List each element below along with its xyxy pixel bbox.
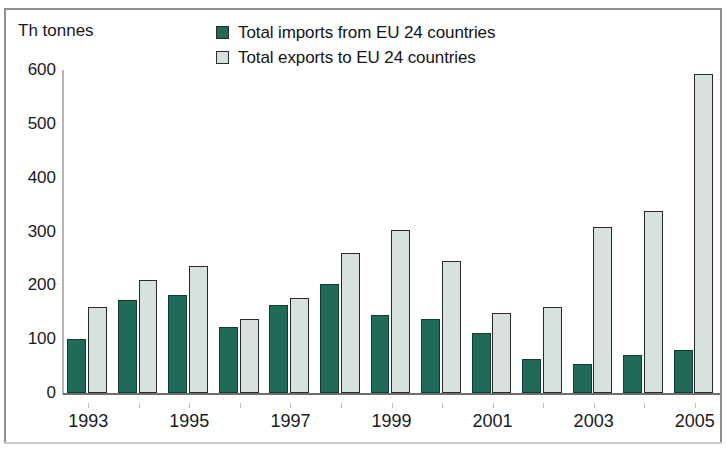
bar-2005-exports (694, 74, 713, 393)
chart-legend: Total imports from EU 24 countries Total… (216, 20, 495, 70)
bar-group (63, 70, 720, 393)
bar-2005-imports (674, 350, 693, 393)
legend-item-exports: Total exports to EU 24 countries (216, 45, 495, 70)
x-tickmark-1997 (290, 403, 291, 408)
bar-2003-exports (593, 227, 612, 393)
bar-2004-imports (623, 355, 642, 393)
bar-2004-exports (644, 211, 663, 393)
bar-1999-exports (391, 230, 410, 393)
legend-label-exports: Total exports to EU 24 countries (238, 48, 476, 68)
bar-chart-figure: Th tonnes Total imports from EU 24 count… (0, 0, 726, 452)
x-tickmark-1993 (88, 403, 89, 408)
x-tickmark-2000 (442, 403, 443, 408)
bar-2000-imports (421, 319, 440, 393)
x-tick-1993: 1993 (68, 411, 108, 432)
bar-1997-exports (290, 298, 309, 393)
x-tickmark-1998 (341, 403, 342, 408)
y-tick-400: 400 (28, 168, 56, 188)
figure-border-right (720, 8, 722, 444)
figure-border-top (4, 8, 722, 10)
x-tick-2003: 2003 (574, 411, 614, 432)
bar-2000-exports (442, 261, 461, 393)
x-tickmark-1999 (392, 403, 393, 408)
x-tickmark-2001 (493, 403, 494, 408)
x-tickmark-1996 (240, 403, 241, 408)
bar-1996-imports (219, 327, 238, 393)
bar-1994-exports (139, 280, 158, 393)
y-tick-100: 100 (28, 329, 56, 349)
x-tickmark-2002 (543, 403, 544, 408)
x-tickmark-2005 (695, 403, 696, 408)
y-tick-300: 300 (28, 222, 56, 242)
x-tickmark-2003 (594, 403, 595, 408)
y-axis-tick-labels: 0100200300400500600 (0, 70, 56, 393)
bar-1993-exports (88, 307, 107, 393)
legend-item-imports: Total imports from EU 24 countries (216, 20, 495, 45)
x-axis-tick-labels: 1993199519971999200120032005 (63, 403, 720, 433)
bar-2003-imports (573, 364, 592, 393)
x-axis-line (63, 393, 720, 395)
y-tick-0: 0 (47, 383, 56, 403)
bar-1996-exports (240, 319, 259, 393)
x-tick-1999: 1999 (371, 411, 411, 432)
bar-1997-imports (269, 305, 288, 393)
plot-area (63, 70, 720, 395)
x-tickmark-1994 (139, 403, 140, 408)
bar-1998-imports (320, 284, 339, 393)
x-tickmark-1995 (189, 403, 190, 408)
bar-1995-exports (189, 266, 208, 393)
y-tick-500: 500 (28, 114, 56, 134)
y-tick-200: 200 (28, 275, 56, 295)
y-tick-600: 600 (28, 60, 56, 80)
bar-2002-imports (522, 359, 541, 393)
legend-swatch-exports (216, 51, 229, 64)
bar-1995-imports (168, 295, 187, 394)
legend-swatch-imports (216, 26, 229, 39)
bar-2001-exports (492, 313, 511, 393)
figure-border-bottom (4, 442, 722, 444)
bar-1999-imports (371, 315, 390, 393)
bar-1994-imports (118, 300, 137, 393)
bar-2001-imports (472, 333, 491, 393)
bar-1993-imports (67, 339, 86, 393)
y-axis-unit-label: Th tonnes (18, 21, 94, 41)
legend-label-imports: Total imports from EU 24 countries (238, 23, 495, 43)
x-tick-2001: 2001 (473, 411, 513, 432)
x-tick-1995: 1995 (169, 411, 209, 432)
bar-1998-exports (341, 253, 360, 393)
x-tick-2005: 2005 (675, 411, 715, 432)
bar-2002-exports (543, 307, 562, 393)
x-tickmark-2004 (644, 403, 645, 408)
x-tick-1997: 1997 (270, 411, 310, 432)
